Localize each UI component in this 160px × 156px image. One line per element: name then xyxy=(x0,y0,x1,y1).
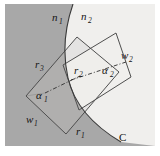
label-n1-subscript: 1 xyxy=(59,17,63,26)
label-alpha1-subscript: 1 xyxy=(44,95,48,104)
figure-container: n 1 n 2 r 3 α 1 w 1 r 2 α xyxy=(0,0,160,156)
label-r2-subscript: 2 xyxy=(79,70,83,79)
label-n2-subscript: 2 xyxy=(88,16,92,25)
label-w2-base: w xyxy=(121,49,129,61)
label-alpha2-base: α xyxy=(102,64,108,76)
label-w1-base: w xyxy=(26,113,34,125)
label-r1-subscript: 1 xyxy=(81,131,85,140)
label-w1-subscript: 1 xyxy=(34,119,38,128)
label-n2-base: n xyxy=(81,10,87,22)
label-n1-base: n xyxy=(52,11,58,23)
label-alpha1-base: α xyxy=(36,89,42,101)
label-w2-subscript: 2 xyxy=(129,55,133,64)
label-r3-subscript: 3 xyxy=(39,64,44,73)
label-curve-c: C xyxy=(119,131,126,143)
refraction-window-diagram: n 1 n 2 r 3 α 1 w 1 r 2 α xyxy=(0,0,160,156)
label-alpha2-subscript: 2 xyxy=(110,70,114,79)
